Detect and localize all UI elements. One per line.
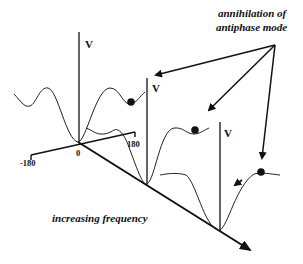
phase-min-label: -180: [20, 158, 36, 168]
v-label-2: V: [152, 82, 160, 94]
potential-curve-3: [220, 173, 280, 230]
v-label-3: V: [224, 127, 232, 139]
frequency-axis: [78, 142, 250, 250]
ball-1: [127, 98, 135, 106]
phase-max-label: 180: [127, 139, 140, 149]
diagram-canvas: annihilation of antiphase mode V V V -18…: [0, 0, 303, 264]
roll-direction-arrow: [235, 180, 242, 185]
ball-3: [257, 168, 265, 176]
annotation-line-1: annihilation of: [218, 7, 288, 19]
ball-2: [191, 126, 199, 134]
frequency-label: increasing frequency: [52, 212, 148, 224]
annotation-line-2: antiphase mode: [216, 21, 287, 33]
annotation-arrows: [156, 45, 275, 158]
phase-zero-label: 0: [76, 148, 80, 158]
potential-curve-2-lower: [160, 173, 218, 230]
potential-curve-2: [147, 128, 209, 184]
v-label-1: V: [85, 38, 93, 50]
